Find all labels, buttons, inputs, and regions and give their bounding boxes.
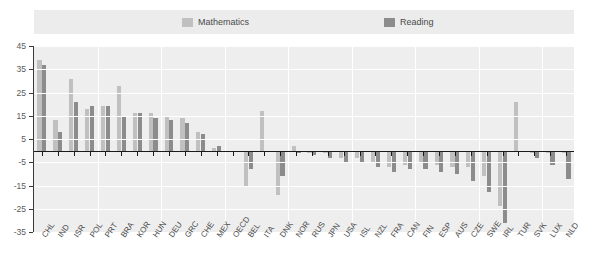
y-axis-tick-label: -25 xyxy=(14,204,26,214)
gridline-horizontal xyxy=(34,162,574,163)
x-axis-tick xyxy=(328,152,329,156)
bar-grc-mathematics xyxy=(180,118,184,151)
y-axis-tick-label: 35 xyxy=(17,64,26,74)
bar-chl-reading xyxy=(42,65,46,151)
legend-label: Reading xyxy=(400,17,434,27)
bar-hun-reading xyxy=(153,118,157,151)
gridline-horizontal xyxy=(34,139,574,140)
y-axis-tick xyxy=(29,69,33,70)
x-axis-tick xyxy=(312,152,313,156)
x-axis-tick xyxy=(169,152,170,156)
y-axis-tick xyxy=(29,162,33,163)
gridline-horizontal xyxy=(34,116,574,117)
y-axis-tick xyxy=(29,46,33,47)
bar-kor-reading xyxy=(138,113,142,150)
x-axis-tick xyxy=(42,152,43,156)
x-axis-tick xyxy=(74,152,75,156)
chart-root: MathematicsReading 453525155-5-15-25-35 … xyxy=(0,0,598,268)
bar-ind-mathematics xyxy=(53,120,57,150)
x-axis-tick xyxy=(518,152,519,156)
gridline-horizontal xyxy=(34,46,574,47)
x-axis-tick xyxy=(423,152,424,156)
bar-prt-reading xyxy=(106,106,110,150)
x-axis-tick xyxy=(487,152,488,156)
zero-axis-line xyxy=(34,151,574,152)
bar-bra-reading xyxy=(122,116,126,151)
bar-irl-mathematics xyxy=(498,151,502,207)
y-axis-tick-label: -5 xyxy=(18,157,26,167)
x-axis-tick xyxy=(137,152,138,156)
plot-area xyxy=(34,46,574,232)
x-axis-tick xyxy=(550,152,551,156)
bar-ita-mathematics xyxy=(260,111,264,151)
bar-deu-reading xyxy=(169,120,173,150)
bar-prt-mathematics xyxy=(101,106,105,150)
bar-pol-reading xyxy=(90,106,94,150)
y-axis-tick xyxy=(29,232,33,233)
gridline-horizontal xyxy=(34,209,574,210)
gridline-vertical xyxy=(415,46,416,232)
x-axis-tick xyxy=(121,152,122,156)
gridline-vertical xyxy=(542,46,543,232)
y-axis-tick-label: -35 xyxy=(14,227,26,237)
x-axis-tick xyxy=(185,152,186,156)
y-axis-tick-label: 25 xyxy=(17,88,26,98)
gridline-vertical xyxy=(288,46,289,232)
x-axis-tick xyxy=(566,152,567,156)
x-axis-tick xyxy=(375,152,376,156)
legend-swatch-icon xyxy=(182,18,193,27)
y-axis-tick xyxy=(29,116,33,117)
legend-item-reading[interactable]: Reading xyxy=(384,14,434,30)
x-axis-tick xyxy=(455,152,456,156)
x-axis-tick xyxy=(503,152,504,156)
gridline-vertical xyxy=(225,46,226,232)
legend-swatch-icon xyxy=(384,18,395,27)
y-axis-labels: 453525155-5-15-25-35 xyxy=(0,46,30,232)
bar-che-mathematics xyxy=(196,132,200,151)
x-axis-tick xyxy=(105,152,106,156)
x-axis-tick xyxy=(296,152,297,156)
x-axis-tick xyxy=(344,152,345,156)
bar-dnk-mathematics xyxy=(276,151,280,195)
bar-grc-reading xyxy=(185,123,189,151)
gridline-vertical xyxy=(479,46,480,232)
x-axis-tick xyxy=(391,152,392,156)
x-axis-tick xyxy=(407,152,408,156)
bar-deu-mathematics xyxy=(165,116,169,151)
x-axis-tick xyxy=(58,152,59,156)
x-axis-tick xyxy=(471,152,472,156)
y-axis-tick xyxy=(29,93,33,94)
x-axis-tick xyxy=(153,152,154,156)
gridline-horizontal xyxy=(34,93,574,94)
y-axis-line xyxy=(33,46,34,232)
gridline-vertical xyxy=(161,46,162,232)
bar-chl-mathematics xyxy=(37,60,41,151)
x-axis-tick xyxy=(90,152,91,156)
gridline-horizontal xyxy=(34,69,574,70)
bar-bel-mathematics xyxy=(244,151,248,186)
bar-isr-reading xyxy=(74,102,78,151)
gridline-vertical xyxy=(352,46,353,232)
x-axis-tick xyxy=(439,152,440,156)
y-axis-tick-label: 15 xyxy=(17,111,26,121)
legend-item-mathematics[interactable]: Mathematics xyxy=(182,14,249,30)
x-axis-tick xyxy=(264,152,265,156)
x-axis-tick xyxy=(201,152,202,156)
y-axis-tick-label: -15 xyxy=(14,181,26,191)
bar-hun-mathematics xyxy=(149,113,153,150)
y-axis-tick xyxy=(29,186,33,187)
gridline-horizontal xyxy=(34,186,574,187)
x-axis-tick xyxy=(233,152,234,156)
chart-legend: MathematicsReading xyxy=(34,10,574,34)
legend-label: Mathematics xyxy=(198,17,249,27)
x-axis-tick xyxy=(534,152,535,156)
y-axis-tick-label: 5 xyxy=(21,134,26,144)
bar-kor-mathematics xyxy=(133,113,137,150)
x-axis-tick xyxy=(280,152,281,156)
y-axis-tick-label: 45 xyxy=(17,41,26,51)
bar-bra-mathematics xyxy=(117,86,121,151)
bar-che-reading xyxy=(201,134,205,150)
x-axis-tick xyxy=(248,152,249,156)
x-axis-tick xyxy=(217,152,218,156)
bar-tur-mathematics xyxy=(514,102,518,151)
